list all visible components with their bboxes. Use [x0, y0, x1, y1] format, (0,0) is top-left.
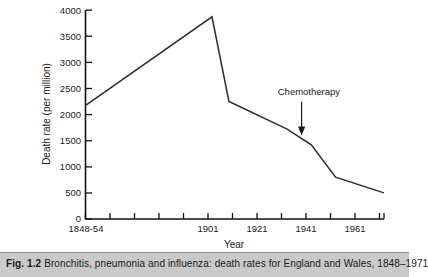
y-tick-label: 2000	[60, 109, 81, 120]
x-axis-tick-labels: 1848-54 1901 1921 1941 1961	[69, 223, 366, 234]
annotation-label-chemotherapy: Chemotherapy	[278, 86, 341, 97]
x-tick-label: 1921	[246, 223, 267, 234]
y-tick-label: 3500	[60, 31, 81, 42]
y-tick-label: 1000	[60, 161, 81, 172]
annotation-arrow-icon	[298, 102, 305, 136]
x-tick-label: 1848-54	[69, 223, 104, 234]
y-tick-label: 3000	[60, 57, 81, 68]
y-tick-label: 500	[65, 187, 81, 198]
line-chart: 4000 3500 3000 2500 2000 1500 1000 500 0	[0, 0, 409, 250]
x-axis-title: Year	[224, 239, 245, 250]
x-tick-label: 1901	[197, 223, 218, 234]
x-axis-ticks	[86, 213, 385, 219]
y-tick-label: 2500	[60, 83, 81, 94]
y-axis-tick-labels: 4000 3500 3000 2500 2000 1500 1000 500 0	[60, 5, 81, 225]
figure-caption-bar: Fig. 1.2 Bronchitis, pneumonia and influ…	[0, 252, 409, 277]
figure-caption-body: Bronchitis, pneumonia and influenza: dea…	[44, 258, 428, 269]
data-line-series-0	[86, 17, 384, 193]
y-tick-label: 1500	[60, 135, 81, 146]
y-tick-label: 4000	[60, 5, 81, 16]
x-tick-label: 1961	[344, 223, 365, 234]
figure-number: Fig. 1.2	[6, 258, 41, 269]
chart-plot-area: 4000 3500 3000 2500 2000 1500 1000 500 0	[0, 0, 409, 250]
y-axis-ticks	[86, 10, 92, 219]
y-axis-title: Death rate (per million)	[41, 63, 52, 165]
x-tick-label: 1941	[295, 223, 316, 234]
figure-caption: Fig. 1.2 Bronchitis, pneumonia and influ…	[6, 258, 407, 269]
